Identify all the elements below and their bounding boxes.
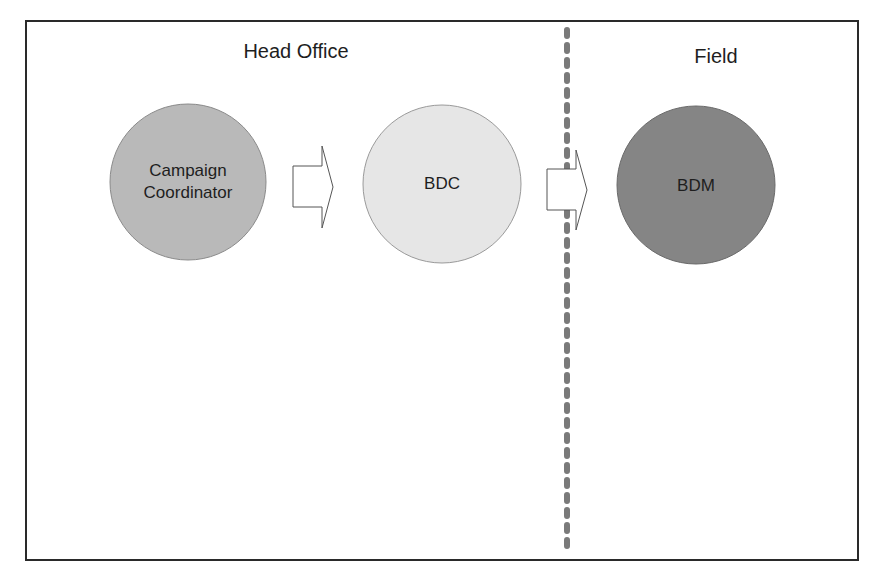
arrow-right-icon: [293, 146, 333, 228]
diagram-canvas: [0, 0, 882, 583]
node-label: BDM: [677, 175, 715, 197]
node-campaign-coordinator: Campaign Coordinator: [144, 160, 233, 204]
node-bdc: BDC: [424, 173, 460, 195]
region-label-field: Field: [694, 45, 737, 68]
node-label-line1: Campaign: [144, 160, 233, 182]
node-bdm: BDM: [677, 175, 715, 197]
node-label-line2: Coordinator: [144, 182, 233, 204]
region-label-head-office: Head Office: [243, 40, 348, 63]
node-label: BDC: [424, 173, 460, 195]
